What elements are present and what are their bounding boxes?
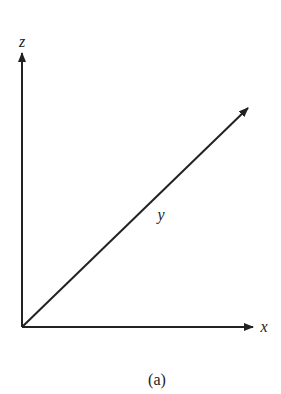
- x-axis-label: x: [259, 318, 267, 335]
- y-axis-label: y: [155, 206, 165, 224]
- z-axis-label: z: [18, 33, 26, 50]
- coordinate-axes-diagram: z x y (a): [0, 0, 281, 394]
- y-axis: [22, 108, 248, 327]
- figure-caption: (a): [148, 371, 166, 389]
